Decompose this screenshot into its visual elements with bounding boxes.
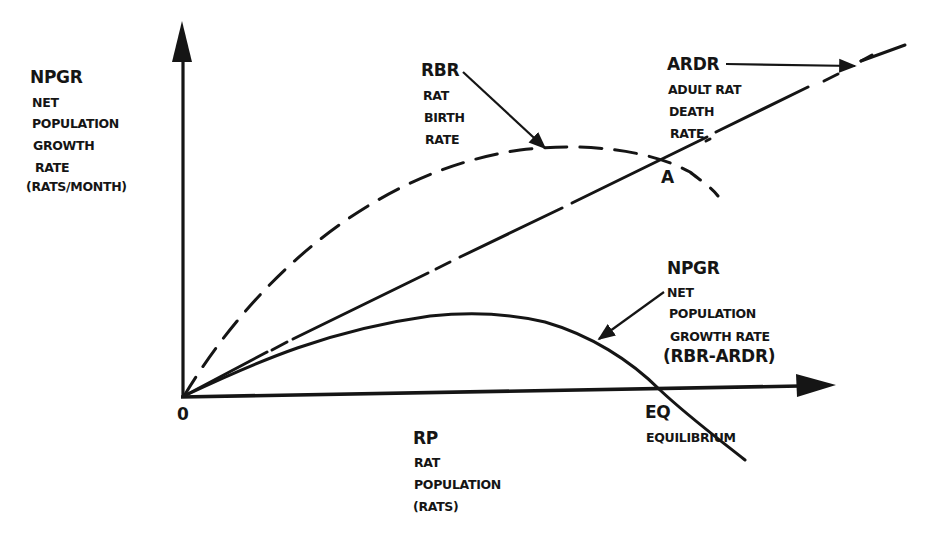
- rbr-curve: [184, 147, 718, 396]
- npgr-line-2: POPULATION: [669, 308, 756, 321]
- origin-label: 0: [177, 406, 189, 423]
- npgr-line-3: GROWTH RATE: [670, 331, 770, 344]
- npgr-abbr: NPGR: [667, 260, 720, 277]
- x-axis-unit: (RATS): [413, 501, 458, 514]
- ardr-abbr: ARDR: [667, 56, 719, 73]
- x-axis-line-2: POPULATION: [414, 479, 501, 492]
- y-axis-line-4: RATE: [35, 162, 69, 175]
- y-axis-line-3: GROWTH: [33, 140, 95, 153]
- npgr-formula: (RBR-ARDR): [663, 348, 775, 365]
- y-axis-line-2: POPULATION: [32, 118, 119, 131]
- ardr-leader-arrow: [726, 64, 855, 66]
- y-axis-line-1: NET: [32, 97, 59, 110]
- y-axis: [172, 21, 192, 398]
- ardr-line-2: DEATH: [669, 106, 714, 119]
- npgr-leader-arrow: [599, 292, 664, 339]
- rbr-line-1: RAT: [423, 90, 449, 103]
- point-a-label: A: [661, 169, 674, 186]
- population-growth-diagram: [0, 0, 940, 540]
- y-axis-abbr: NPGR: [30, 69, 83, 86]
- rbr-line-2: BIRTH: [424, 112, 465, 125]
- rbr-abbr: RBR: [421, 62, 459, 79]
- ardr-line-1: ADULT RAT: [668, 84, 741, 97]
- ardr-line-3: RATE: [670, 128, 704, 141]
- x-axis-line-1: RAT: [414, 457, 440, 470]
- eq-text: EQUILIBRIUM: [646, 432, 736, 445]
- x-axis-arrowhead-icon: [796, 374, 836, 397]
- y-axis-unit: (RATS/MONTH): [26, 181, 127, 194]
- npgr-line-1: NET: [667, 287, 694, 300]
- rbr-leader-arrow: [463, 72, 545, 148]
- rbr-line-3: RATE: [425, 134, 459, 147]
- x-axis-abbr: RP: [413, 430, 438, 447]
- ardr-line: [184, 45, 905, 396]
- x-axis: [181, 374, 836, 397]
- eq-abbr: EQ: [645, 404, 670, 421]
- y-axis-arrowhead-icon: [172, 21, 192, 62]
